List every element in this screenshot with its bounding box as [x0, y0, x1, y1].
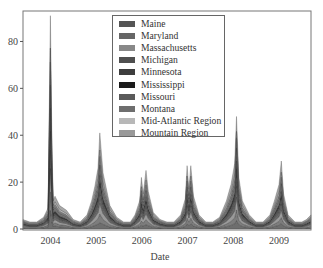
legend-label: Mississippi: [141, 79, 185, 91]
legend-swatch: [119, 106, 135, 112]
legend-item: Mississippi: [119, 78, 224, 90]
legend: MaineMarylandMassachusettsMichiganMinnes…: [112, 15, 225, 137]
legend-label: Mountain Region: [141, 127, 208, 139]
y-tick-label: 40: [8, 130, 18, 141]
legend-label: Mid-Atlantic Region: [141, 115, 221, 127]
legend-item: Mid-Atlantic Region: [119, 115, 224, 127]
legend-item: Maine: [119, 18, 224, 30]
y-tick-label: 80: [8, 36, 18, 47]
legend-item: Massachusetts: [119, 42, 224, 54]
x-tick-label: 2005: [86, 235, 106, 246]
legend-item: Maryland: [119, 30, 224, 42]
legend-label: Montana: [141, 103, 175, 115]
legend-item: Missouri: [119, 91, 224, 103]
x-tick-label: 2006: [132, 235, 152, 246]
x-tick-label: 2007: [178, 235, 198, 246]
legend-swatch: [119, 45, 135, 51]
legend-label: Massachusetts: [141, 42, 196, 54]
legend-item: Michigan: [119, 54, 224, 66]
x-axis: 200420052006200720082009: [40, 235, 289, 246]
x-tick-label: 2008: [223, 235, 243, 246]
legend-label: Maryland: [141, 30, 178, 42]
legend-item: Montana: [119, 103, 224, 115]
legend-swatch: [119, 94, 135, 100]
legend-label: Missouri: [141, 91, 175, 103]
y-axis: 020406080: [8, 36, 23, 235]
legend-swatch: [119, 69, 135, 75]
legend-label: Minnesota: [141, 66, 182, 78]
legend-swatch: [119, 33, 135, 39]
legend-swatch: [119, 118, 135, 124]
legend-swatch: [119, 21, 135, 27]
legend-swatch: [119, 130, 135, 136]
legend-swatch: [119, 57, 135, 63]
x-tick-label: 2009: [269, 235, 289, 246]
legend-label: Maine: [141, 18, 166, 30]
y-tick-label: 0: [13, 224, 18, 235]
y-tick-label: 60: [8, 83, 18, 94]
legend-label: Michigan: [141, 54, 178, 66]
legend-item: Minnesota: [119, 66, 224, 78]
x-axis-title: Date: [151, 251, 170, 262]
legend-item: Mountain Region: [119, 127, 224, 139]
x-tick-label: 2004: [40, 235, 60, 246]
legend-swatch: [119, 82, 135, 88]
y-tick-label: 20: [8, 177, 18, 188]
